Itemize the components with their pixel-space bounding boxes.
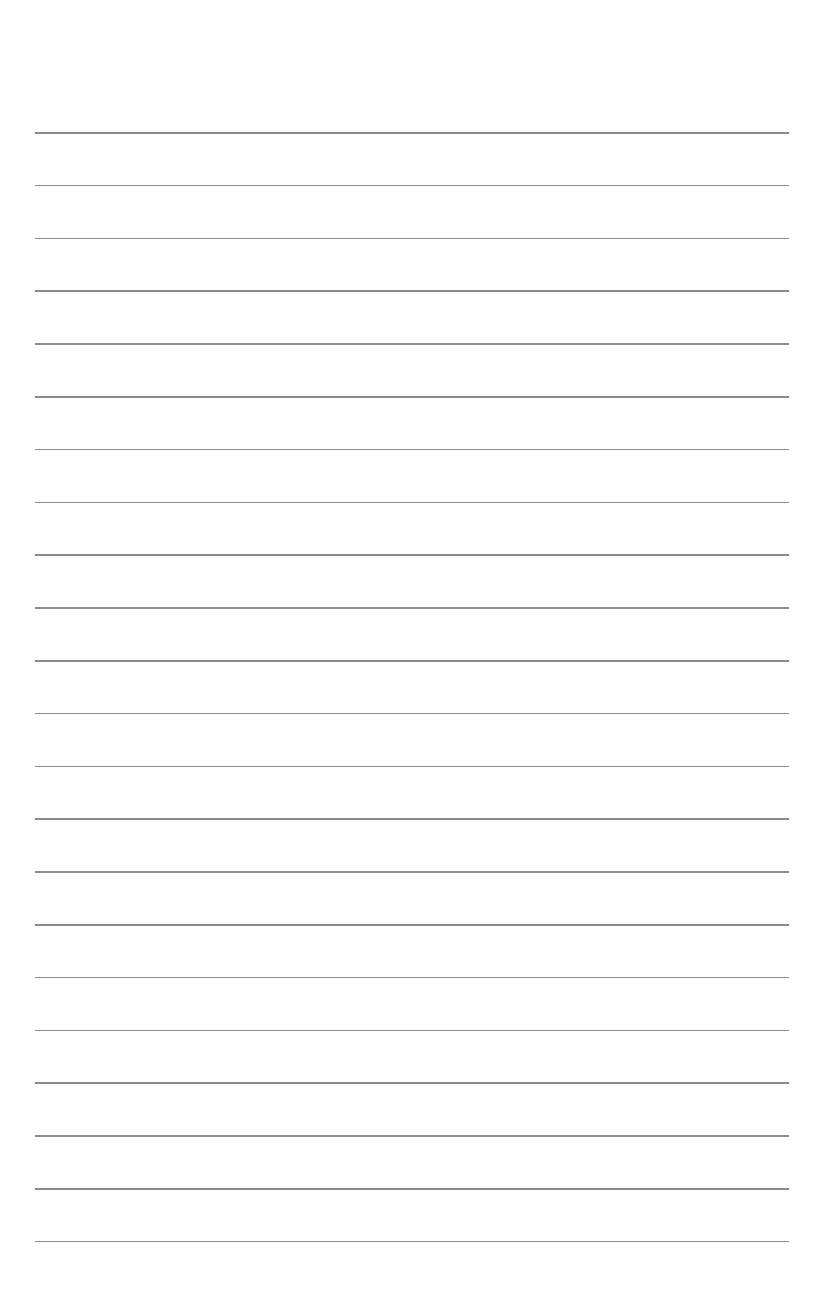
ruled-line: [35, 290, 789, 292]
ruled-line: [35, 977, 789, 979]
ruled-line: [35, 343, 789, 345]
ruled-line: [35, 449, 789, 451]
ruled-line: [35, 1135, 789, 1137]
ruled-line: [35, 660, 789, 662]
ruled-line: [35, 871, 789, 873]
ruled-line: [35, 554, 789, 556]
ruled-line: [35, 238, 789, 240]
ruled-line: [35, 818, 789, 820]
lined-paper-page: [0, 0, 829, 1314]
ruled-line: [35, 1188, 789, 1190]
ruled-line: [35, 185, 789, 187]
ruled-line: [35, 396, 789, 398]
ruled-line: [35, 607, 789, 609]
ruled-line: [35, 132, 789, 134]
ruled-line: [35, 1082, 789, 1084]
ruled-line: [35, 1030, 789, 1032]
ruled-line: [35, 924, 789, 926]
ruled-line: [35, 713, 789, 715]
ruled-line: [35, 502, 789, 504]
ruled-line: [35, 1241, 789, 1243]
ruled-line: [35, 766, 789, 768]
